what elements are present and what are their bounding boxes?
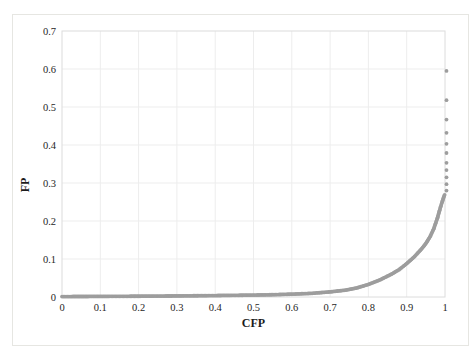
x-tick-label: 0.5 — [247, 302, 260, 313]
x-tick-label: 0.6 — [285, 302, 298, 313]
x-tick-label: 0.8 — [362, 302, 375, 313]
y-tick-label: 0.1 — [43, 254, 56, 265]
x-tick-label: 0.4 — [209, 302, 223, 313]
y-axis-title: FP — [18, 178, 32, 193]
y-tick-label: 0.5 — [43, 102, 56, 113]
data-point — [445, 168, 449, 172]
y-tick-label: 0.6 — [43, 64, 56, 75]
data-point — [445, 98, 449, 102]
x-tick-label: 0.3 — [170, 302, 183, 313]
scatter-plot-canvas: 00.10.20.30.40.50.60.70.80.91 00.10.20.3… — [0, 0, 474, 363]
data-point — [445, 131, 449, 135]
x-tick-label: 0.9 — [400, 302, 413, 313]
y-tick-label: 0 — [51, 292, 56, 303]
data-point — [445, 182, 449, 186]
data-point — [445, 189, 449, 193]
y-tick-label: 0.3 — [43, 178, 56, 189]
x-tick-label: 0 — [59, 302, 64, 313]
x-axis-title: CFP — [242, 316, 265, 330]
data-point — [445, 142, 449, 146]
data-point — [445, 175, 449, 179]
x-tick-label: 0.7 — [324, 302, 337, 313]
chart-area: 00.10.20.30.40.50.60.70.80.91 00.10.20.3… — [0, 0, 474, 363]
data-point — [445, 151, 449, 155]
y-tick-label: 0.2 — [43, 216, 56, 227]
data-point — [445, 69, 449, 73]
x-tick-label: 0.2 — [132, 302, 145, 313]
data-point — [445, 118, 449, 122]
y-tick-label: 0.7 — [43, 26, 56, 37]
data-point — [445, 161, 449, 165]
x-tick-label: 0.1 — [94, 302, 107, 313]
band-point — [443, 193, 447, 197]
y-tick-label: 0.4 — [43, 140, 57, 151]
x-tick-label: 1 — [442, 302, 447, 313]
